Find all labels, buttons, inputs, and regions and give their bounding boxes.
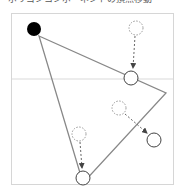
move-arrow-bottom — [80, 142, 82, 168]
move-arrows — [80, 36, 147, 168]
ghost-handle-top — [129, 21, 143, 35]
selected-vertex-handle[interactable] — [27, 22, 41, 36]
polygon-shape[interactable] — [39, 36, 166, 183]
move-arrow-top — [133, 36, 135, 68]
ghost-handle-middle — [112, 101, 126, 115]
vertex-handles[interactable] — [76, 71, 161, 185]
moved-handle-bottom[interactable] — [76, 171, 90, 185]
moved-handle-edge-top[interactable] — [124, 71, 138, 85]
ghost-handle-bottom — [72, 127, 86, 141]
polygon-diagram — [0, 0, 182, 189]
moved-handle-right[interactable] — [147, 133, 161, 147]
